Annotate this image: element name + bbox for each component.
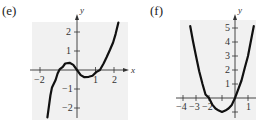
chart-e-tick-x-neg2: −2 [34,74,45,85]
chart-f: 5 4 3 2 1 −4 −3 −2 1 y [176,5,256,120]
chart-e-y-arrow-icon [75,14,79,20]
chart-f-tick-y-5: 5 [225,22,230,33]
chart-e-tick-y-2: 2 [66,26,71,37]
chart-e-tick-y-neg2: −2 [62,102,73,113]
chart-f-tick-y-2: 2 [225,64,230,75]
chart-f-tick-y-4: 4 [225,36,230,47]
chart-f-y-axis-label: y [237,5,242,15]
charts-canvas: −2 1 2 2 1 −1 −2 x y 5 4 3 2 [0,0,256,130]
chart-e-tick-y-neg1: −1 [62,83,73,94]
chart-e: −2 1 2 2 1 −1 −2 x y [30,5,135,120]
chart-e-tick-y-1: 1 [66,45,71,56]
chart-f-tick-x-neg4: −4 [176,101,187,112]
chart-e-x-axis-label: x [130,65,135,75]
chart-f-tick-x-1: 1 [246,101,251,112]
chart-f-tick-y-1: 1 [225,78,230,89]
chart-f-tick-x-neg3: −3 [189,101,200,112]
chart-e-y-axis-label: y [79,5,84,15]
chart-f-tick-y-3: 3 [225,50,230,61]
chart-e-tick-x-2: 2 [112,74,117,85]
chart-f-y-arrow-icon [233,14,237,20]
